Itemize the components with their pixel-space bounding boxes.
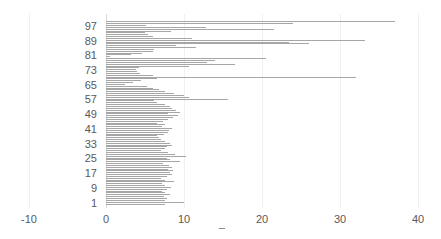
bar — [106, 148, 165, 149]
bar — [106, 189, 167, 190]
bar — [106, 191, 162, 192]
bar — [106, 31, 171, 32]
x-tick-label: -10 — [21, 213, 37, 225]
bar — [106, 54, 131, 55]
bar — [106, 29, 274, 30]
bar — [106, 86, 147, 87]
bar — [106, 34, 148, 35]
bar — [106, 64, 235, 65]
bar — [106, 181, 174, 182]
y-tick-label: 57 — [67, 93, 97, 105]
bar — [106, 154, 175, 155]
bar — [106, 88, 153, 89]
bar — [106, 159, 170, 160]
bar — [106, 192, 165, 193]
bar — [106, 113, 168, 114]
gridline — [340, 14, 341, 208]
bar — [106, 124, 165, 125]
bar — [106, 32, 145, 33]
bar — [106, 178, 161, 179]
bar — [106, 89, 159, 90]
bar — [106, 156, 186, 157]
bar — [106, 102, 157, 103]
y-tick-label: 9 — [67, 182, 97, 194]
bar — [106, 141, 165, 142]
bar — [106, 187, 171, 188]
bar — [106, 40, 365, 41]
bar — [106, 167, 172, 168]
bar — [106, 170, 173, 171]
bar — [106, 53, 142, 54]
bar — [106, 128, 172, 129]
bar — [106, 143, 170, 144]
bar — [106, 126, 162, 127]
bar — [106, 36, 153, 37]
bar — [106, 25, 146, 26]
gridline — [29, 14, 30, 208]
bar — [106, 204, 165, 205]
bar — [106, 69, 136, 70]
y-tick-label: 41 — [67, 123, 97, 135]
bar — [106, 62, 207, 63]
axis-title-placeholder — [219, 228, 225, 229]
bar — [106, 43, 309, 44]
bar — [106, 60, 215, 61]
bar — [106, 82, 133, 83]
bar — [106, 73, 140, 74]
bar — [106, 163, 163, 164]
bar — [106, 97, 189, 98]
y-tick-label: 17 — [67, 167, 97, 179]
bar — [106, 21, 395, 22]
bar — [106, 110, 176, 111]
y-tick-label: 97 — [67, 20, 97, 32]
bar — [106, 172, 170, 173]
y-tick-label: 33 — [67, 138, 97, 150]
bar — [106, 42, 289, 43]
bar — [106, 119, 168, 120]
bar — [106, 158, 167, 159]
bar — [106, 27, 206, 28]
bar — [106, 152, 168, 153]
bar — [106, 38, 192, 39]
x-tick-label: 10 — [178, 213, 190, 225]
bar — [106, 78, 157, 79]
bar — [106, 77, 356, 78]
bar — [106, 196, 164, 197]
bar — [106, 71, 137, 72]
bar — [106, 134, 164, 135]
bar — [106, 66, 189, 67]
bar — [106, 202, 184, 203]
bar — [106, 200, 165, 201]
bar — [106, 139, 161, 140]
y-tick-label: 65 — [67, 79, 97, 91]
x-tick-label: 40 — [412, 213, 424, 225]
bar — [106, 106, 170, 107]
bar — [106, 99, 228, 100]
bar — [106, 135, 157, 136]
bar — [106, 58, 266, 59]
bar — [106, 51, 153, 52]
bar — [106, 165, 169, 166]
bar — [106, 47, 196, 48]
bar — [106, 100, 154, 101]
bar — [106, 137, 159, 138]
bar — [106, 108, 172, 109]
bar — [106, 115, 178, 116]
bar — [106, 198, 167, 199]
bar — [106, 161, 180, 162]
bar — [106, 84, 125, 85]
bar — [106, 95, 184, 96]
bar — [106, 67, 139, 68]
y-tick-label: 49 — [67, 108, 97, 120]
bar — [106, 174, 172, 175]
bar — [106, 91, 165, 92]
y-tick-label: 81 — [67, 49, 97, 61]
y-tick-label: 89 — [67, 35, 97, 47]
bar — [106, 121, 163, 122]
y-tick-label: 73 — [67, 64, 97, 76]
bar — [106, 180, 165, 181]
bar — [106, 56, 110, 57]
bar — [106, 45, 176, 46]
bar — [106, 117, 173, 118]
x-tick-label: 20 — [256, 213, 268, 225]
